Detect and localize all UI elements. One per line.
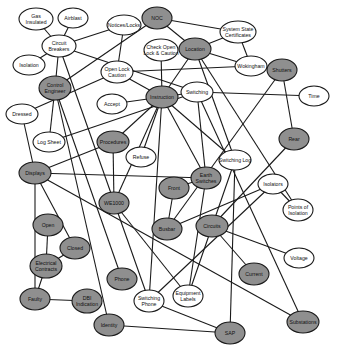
node-label: Open: [42, 222, 55, 228]
node-sap: SAP: [215, 322, 245, 344]
node-label: Location: [185, 46, 205, 52]
node-switching: Switching: [181, 82, 213, 102]
node-we1000: WE1000: [99, 192, 129, 214]
edge-switching-to-time: [197, 92, 314, 96]
node-voltage: Voltage: [284, 248, 314, 268]
node-gas-insulated: GasInsulated: [19, 8, 53, 30]
edge-switching-log-to-sap: [230, 160, 235, 333]
node-shutters: Shutters: [267, 59, 297, 81]
node-rear: Rear: [279, 128, 309, 150]
node-label: Voltage: [290, 255, 307, 261]
node-instruction: Instruction: [146, 86, 178, 108]
concept-network-diagram: GasInsulatedAirblastCircuitBreakersIsola…: [0, 0, 342, 351]
node-label: Isolation: [288, 210, 307, 216]
edge-switching-to-earth-switches: [197, 92, 206, 178]
node-label: Front: [168, 185, 181, 191]
node-label: Log Sheet: [37, 139, 61, 145]
node-label: Lock & Caution: [143, 50, 178, 56]
edge-circuit-breakers-to-switching-phone: [59, 46, 149, 301]
node-label: Accept: [104, 101, 120, 107]
node-label: Certificates: [225, 32, 251, 38]
node-dressed: Dressed: [6, 104, 38, 124]
node-label: Switching: [186, 89, 208, 95]
node-label: Displays: [25, 170, 45, 176]
node-label: Shutters: [272, 67, 292, 73]
node-switching-phone: SwitchingPhone: [134, 290, 164, 312]
node-equipment-labels: EquipmentLabels: [173, 285, 203, 307]
node-switching-log: Switching Log: [219, 150, 251, 170]
node-system-state-certificates: System StateCertificates: [220, 21, 256, 43]
node-substations: Substations: [287, 311, 319, 333]
node-log-sheet: Log Sheet: [33, 132, 65, 152]
node-label: Caution: [108, 72, 126, 78]
node-label: Airblast: [64, 15, 82, 21]
edge-instruction-to-earth-switches: [162, 97, 206, 178]
node-control-engineer: ControlEngineer: [39, 76, 71, 100]
node-faulty: Faulty: [20, 288, 50, 310]
node-label: Time: [308, 93, 319, 99]
node-label: Dressed: [12, 111, 31, 117]
node-label: Contracts: [35, 266, 58, 272]
node-label: Identity: [101, 322, 118, 328]
node-time: Time: [299, 86, 329, 106]
node-identity: Identity: [94, 314, 124, 336]
node-isolators: Isolators: [258, 174, 288, 194]
node-label: WE1000: [104, 200, 124, 206]
node-isolation: Isolation: [13, 55, 45, 75]
node-label: Notices/Locks: [108, 22, 141, 28]
node-label: Busbar: [159, 226, 176, 232]
node-check-open-lock-caution: Check OpenLock & Caution: [143, 39, 178, 61]
node-electrical-contracts: ElectricalContracts: [30, 254, 62, 278]
node-earth-switches: EarthSwitches: [191, 167, 221, 189]
node-label: Faulty: [28, 296, 43, 302]
node-label: Instruction: [150, 94, 174, 100]
node-label: Phone: [141, 301, 156, 307]
nodes-layer: GasInsulatedAirblastCircuitBreakersIsola…: [6, 7, 329, 344]
node-label: Switching Log: [219, 157, 251, 163]
node-label: Current: [245, 271, 263, 277]
node-label: Closed: [67, 245, 83, 251]
node-label: Wokingham: [237, 63, 264, 69]
node-open-lock-caution: Open LockCaution: [101, 61, 133, 83]
node-label: Isolators: [263, 181, 283, 187]
node-front: Front: [159, 177, 189, 199]
node-label: NOC: [151, 15, 163, 21]
node-notices-locks: Notices/Locks: [107, 15, 141, 35]
node-label: Insulated: [25, 19, 46, 25]
node-label: Breakers: [49, 46, 70, 52]
node-label: Engineer: [45, 88, 66, 94]
node-label: Isolation: [19, 62, 38, 68]
node-label: Indication: [76, 301, 98, 307]
node-label: Rear: [288, 136, 300, 142]
node-displays: Displays: [19, 162, 51, 184]
node-current: Current: [239, 263, 269, 285]
node-busbar: Busbar: [152, 218, 182, 240]
node-location: Location: [179, 38, 211, 60]
node-label: Refuse: [133, 154, 150, 160]
edge-displays-to-earth-switches: [35, 173, 206, 178]
node-label: Phone: [114, 276, 129, 282]
node-wokingham: Wokingham: [235, 56, 267, 76]
node-circuit-breakers: CircuitBreakers: [42, 35, 76, 57]
node-airblast: Airblast: [58, 8, 88, 28]
node-dbi-indication: DBIIndication: [72, 289, 102, 313]
node-closed: Closed: [60, 237, 90, 259]
node-circuits: Circuits: [196, 215, 228, 237]
node-label: Substations: [289, 319, 317, 325]
node-noc: NOC: [142, 7, 172, 29]
edge-wokingham-to-open-lock-caution: [117, 66, 251, 72]
node-label: Labels: [180, 296, 196, 302]
node-accept: Accept: [97, 94, 127, 114]
node-procedures: Procedures: [97, 131, 129, 153]
node-label: Switches: [196, 178, 217, 184]
node-phone: Phone: [107, 268, 137, 290]
node-label: Procedures: [100, 139, 127, 145]
node-refuse: Refuse: [126, 147, 156, 167]
node-open: Open: [33, 214, 63, 236]
node-label: Circuits: [203, 223, 221, 229]
node-points-of-isolation: Points ofIsolation: [283, 199, 313, 221]
node-label: SAP: [225, 330, 236, 336]
